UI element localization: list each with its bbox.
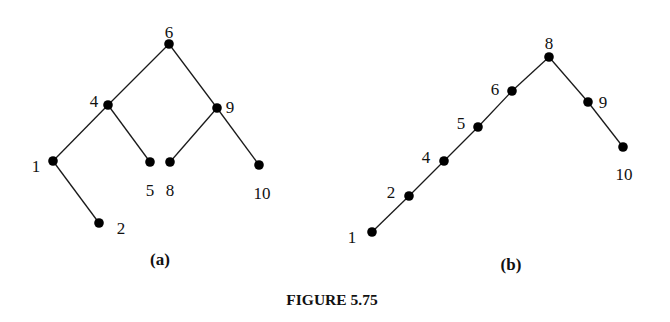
node-4 [439,156,449,166]
figure-5-75: 649158102(a) 865421910(b) FIGURE 5.75 [0,0,670,322]
node-10 [254,160,264,170]
node-label: 2 [117,219,126,238]
tree-a: 649158102(a) [32,23,271,269]
node-label: 10 [254,184,271,203]
node-8 [544,52,554,62]
node-label: 2 [387,183,396,202]
edge-4-1 [53,105,108,161]
node-label: 4 [422,148,431,167]
edge-8-9 [549,57,588,102]
tree-b: 865421910(b) [348,34,633,274]
node-label: 6 [165,23,174,42]
edge-6-4 [108,44,169,105]
node-label: 8 [166,181,175,200]
node-label: 5 [457,114,466,133]
node-1 [367,227,377,237]
node-label: 10 [616,165,633,184]
node-label: 5 [146,181,155,200]
node-5 [145,157,155,167]
figure-caption: FIGURE 5.75 [286,291,378,308]
node-2 [404,191,414,201]
node-9 [583,97,593,107]
node-4 [103,100,113,110]
edge-1-2 [53,161,99,223]
subfigure-label-b: (b) [501,255,522,274]
node-1 [48,156,58,166]
node-label: 4 [90,92,99,111]
node-label: 9 [599,93,608,112]
node-label: 8 [545,34,554,53]
node-10 [618,142,628,152]
node-9 [212,103,222,113]
node-label: 1 [32,157,41,176]
edge-8-6 [512,57,549,91]
node-label: 6 [491,80,500,99]
node-6 [507,86,517,96]
node-2 [94,218,104,228]
node-label: 1 [348,228,357,247]
node-8 [165,157,175,167]
edge-9-8 [170,108,217,162]
edge-9-10 [217,108,259,165]
edge-4-5 [108,105,150,162]
node-5 [473,122,483,132]
edge-6-9 [169,44,217,108]
node-label: 9 [226,98,235,117]
subfigure-label-a: (a) [150,250,170,269]
